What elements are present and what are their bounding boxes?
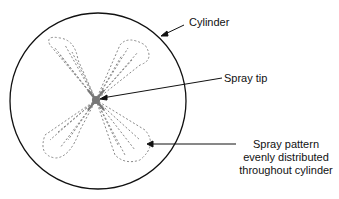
spray-pattern-line-1: Spray pattern	[227, 138, 339, 151]
spray-tip-leader	[102, 78, 222, 98]
cylinder-label: Cylinder	[189, 16, 229, 29]
spray-core	[88, 90, 104, 110]
spray-pattern-line-3: throughout cylinder	[227, 164, 339, 177]
spray-pattern-label: Spray pattern evenly distributed through…	[227, 138, 339, 177]
spray-tip-label: Spray tip	[224, 72, 267, 85]
leader-lines	[100, 25, 236, 147]
spray-pattern-line-2: evenly distributed	[227, 151, 339, 164]
